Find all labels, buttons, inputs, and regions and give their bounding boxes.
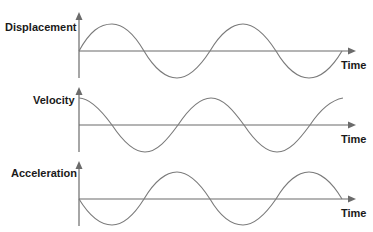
displacement-label: Displacement [5, 21, 77, 33]
acceleration-panel: Acceleration Time [11, 161, 366, 226]
y-arrow-icon [76, 87, 83, 95]
acceleration-label: Acceleration [11, 167, 77, 179]
displacement-time-label: Time [341, 59, 366, 71]
velocity-panel: Velocity Time [33, 87, 366, 152]
x-arrow-icon [348, 48, 356, 55]
velocity-label: Velocity [33, 94, 75, 106]
displacement-panel: Displacement Time [5, 12, 366, 78]
acceleration-time-label: Time [341, 207, 366, 219]
x-arrow-icon [348, 122, 356, 129]
velocity-time-label: Time [341, 133, 366, 145]
motion-diagram: Displacement Time Velocity Time Accelera… [0, 0, 373, 232]
y-arrow-icon [76, 12, 83, 20]
x-arrow-icon [348, 196, 356, 203]
y-arrow-icon [76, 161, 83, 169]
